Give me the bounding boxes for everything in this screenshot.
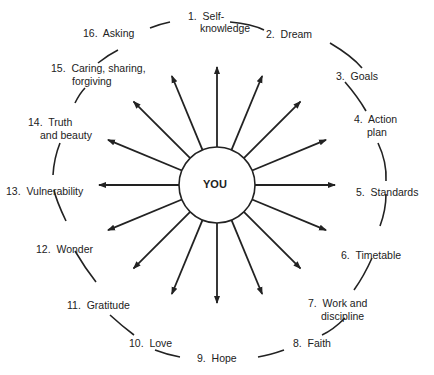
node-label-1-line2: knowledge <box>200 22 250 35</box>
arrow <box>172 220 203 294</box>
arrow <box>134 212 191 269</box>
node-label-9: 9. Hope <box>197 352 237 365</box>
arrow <box>232 76 263 150</box>
node-label-16: 16. Asking <box>83 27 134 40</box>
arrow <box>232 220 263 294</box>
node-label-14-line2: and beauty <box>40 129 92 142</box>
node-label-13: 13. Vulnerability <box>6 185 83 198</box>
node-label-15: 15. Caring, sharing, <box>51 62 146 75</box>
node-label-4-line2: plan <box>367 126 387 139</box>
node-label-14: 14. Truth <box>28 116 72 129</box>
arrow <box>134 102 191 159</box>
arrow <box>244 212 301 269</box>
arrow <box>252 200 326 231</box>
node-label-3: 3. Goals <box>336 70 378 83</box>
arrow <box>244 102 301 159</box>
node-label-10: 10. Love <box>129 337 172 350</box>
arrow <box>172 76 203 150</box>
node-label-12: 12. Wonder <box>36 243 93 256</box>
node-label-11: 11. Gratitude <box>67 299 130 312</box>
arrow <box>108 140 182 171</box>
node-label-2: 2. Dream <box>266 28 312 41</box>
arrow <box>108 200 182 231</box>
arrow <box>252 140 326 171</box>
node-label-6: 6. Timetable <box>341 249 401 262</box>
node-label-15-line2: forgiving <box>72 75 112 88</box>
node-label-4: 4. Action <box>354 113 397 126</box>
node-label-8: 8. Faith <box>293 337 331 350</box>
node-label-7: 7. Work and <box>308 297 367 310</box>
node-label-7-line2: discipline <box>321 310 364 323</box>
node-label-5: 5. Standards <box>356 186 418 199</box>
center-label: YOU <box>203 178 227 190</box>
